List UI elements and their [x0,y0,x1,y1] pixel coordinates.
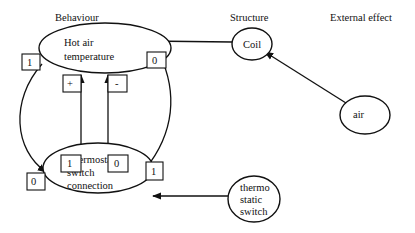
svg-text:0: 0 [31,176,36,187]
external-effect-heading: External effect [330,12,392,23]
svg-text:0: 0 [152,55,157,66]
label-box-left-bottom: 0 [27,173,45,190]
label-box-inner-left-bottom: 1 [61,155,81,172]
edge-left-outer [20,64,46,172]
label-box-left-top: 1 [22,54,40,70]
svg-text:-: - [115,78,119,89]
label-box-plus: + [63,75,81,92]
behaviour-heading: Behaviour [55,12,99,23]
node-air: air [340,96,390,134]
svg-text:temperature: temperature [64,51,114,62]
node-coil: Coil [232,28,272,60]
svg-text:+: + [67,78,73,89]
label-box-inner-right-bottom: 0 [108,155,128,172]
svg-text:1: 1 [67,158,72,169]
edge-air-to-coil [265,52,346,103]
svg-text:connection: connection [67,180,114,191]
causal-diagram: Behaviour Structure External effect Hot … [0,0,415,233]
svg-text:Hot air: Hot air [64,37,94,48]
structure-heading: Structure [230,12,269,23]
svg-text:1: 1 [27,57,32,68]
svg-text:switch: switch [240,206,268,217]
svg-text:air: air [353,109,365,120]
node-thermostatic-switch-connection: Thermostatic switch connection [43,143,153,193]
label-box-right-top: 0 [147,52,166,68]
label-box-right-bottom: 1 [146,162,163,180]
svg-text:1: 1 [151,166,156,177]
label-box-minus: - [108,75,127,92]
svg-text:0: 0 [114,158,119,169]
node-thermostatic-switch: thermo static switch [228,176,280,222]
svg-text:thermo: thermo [240,182,270,193]
svg-text:static: static [240,194,262,205]
svg-text:Coil: Coil [243,39,261,50]
